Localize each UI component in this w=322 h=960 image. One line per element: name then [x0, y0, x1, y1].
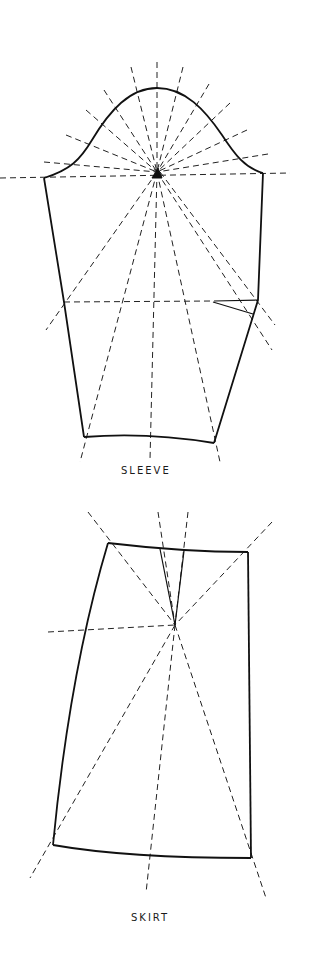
- skirt-label: SKIRT: [131, 912, 169, 923]
- sleeve-label: SLEEVE: [121, 465, 171, 476]
- sleeve-slash-lines: [0, 62, 290, 462]
- pattern-diagram: [0, 0, 322, 960]
- sleeve-outline: [44, 88, 263, 443]
- sleeve-pattern: [0, 62, 290, 462]
- skirt-outline: [53, 543, 251, 858]
- skirt-slash-lines: [30, 512, 272, 898]
- skirt-pattern: [30, 512, 272, 898]
